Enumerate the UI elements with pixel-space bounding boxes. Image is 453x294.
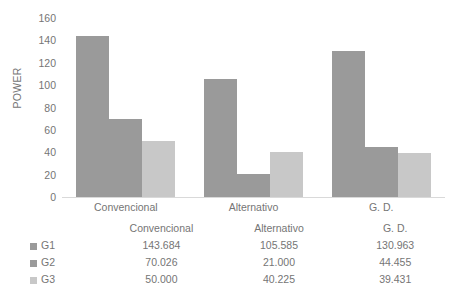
bar-group bbox=[76, 0, 175, 197]
table-column-header: G. D. bbox=[337, 219, 453, 236]
category-axis-labels: ConvencionalAlternativoG. D. bbox=[62, 200, 445, 218]
y-axis-tick-label: 160 bbox=[12, 13, 56, 24]
bar-g3 bbox=[142, 141, 175, 197]
bar-g2 bbox=[365, 147, 398, 197]
chart-data-table: ConvencionalAlternativoG. D.G1143.684105… bbox=[0, 219, 453, 287]
table-cell-value: 50.000 bbox=[102, 270, 220, 287]
bar-g1 bbox=[332, 51, 365, 198]
y-axis-tick-label: 120 bbox=[12, 58, 56, 69]
y-axis-tick-label: 140 bbox=[12, 35, 56, 46]
y-axis-tick-label: 20 bbox=[12, 169, 56, 180]
bar-g3 bbox=[398, 153, 431, 197]
y-axis-tick-label: 60 bbox=[12, 125, 56, 136]
y-axis-tick-label: 80 bbox=[12, 102, 56, 113]
table-cell-value: 39.431 bbox=[337, 270, 453, 287]
legend-swatch-icon bbox=[30, 277, 37, 284]
legend-swatch-icon bbox=[30, 243, 37, 250]
table-column-header: Alternativo bbox=[221, 219, 338, 236]
axis-baseline bbox=[62, 197, 445, 198]
table-cell-value: 40.225 bbox=[221, 270, 338, 287]
legend-swatch-icon bbox=[30, 260, 37, 267]
y-axis-tick-label: 40 bbox=[12, 147, 56, 158]
bar-g3 bbox=[270, 152, 303, 197]
table-cell-value: 105.585 bbox=[221, 236, 338, 253]
bar-g2 bbox=[237, 174, 270, 197]
table-column-header: Convencional bbox=[102, 219, 220, 236]
legend-series-label: G3 bbox=[41, 273, 55, 285]
legend-entry-g1: G1 bbox=[0, 236, 102, 253]
bar-chart-with-data-table: POWER 160140120100806040200 Convencional… bbox=[0, 0, 453, 294]
table-corner-cell bbox=[0, 219, 102, 236]
y-axis-ticks: 160140120100806040200 bbox=[8, 0, 56, 200]
legend-series-label: G2 bbox=[41, 256, 55, 268]
bars-area bbox=[62, 0, 445, 197]
category-label: Alternativo bbox=[190, 201, 318, 213]
category-label: Convencional bbox=[62, 201, 190, 213]
category-label: G. D. bbox=[317, 201, 445, 213]
table-cell-value: 21.000 bbox=[221, 253, 338, 270]
table-row: G270.02621.00044.455 bbox=[0, 253, 453, 270]
table-cell-value: 130.963 bbox=[337, 236, 453, 253]
table-row: G1143.684105.585130.963 bbox=[0, 236, 453, 253]
legend-entry-g2: G2 bbox=[0, 253, 102, 270]
bar-group bbox=[332, 0, 431, 197]
bar-group bbox=[204, 0, 303, 197]
legend-entry-g3: G3 bbox=[0, 270, 102, 287]
table-cell-value: 44.455 bbox=[337, 253, 453, 270]
plot-region: POWER 160140120100806040200 Convencional… bbox=[0, 0, 453, 200]
table-row: G350.00040.22539.431 bbox=[0, 270, 453, 287]
legend-series-label: G1 bbox=[41, 239, 55, 251]
table-cell-value: 143.684 bbox=[102, 236, 220, 253]
bar-g2 bbox=[109, 119, 142, 197]
bar-g1 bbox=[204, 79, 237, 197]
table-header-row: ConvencionalAlternativoG. D. bbox=[0, 219, 453, 236]
bar-g1 bbox=[76, 36, 109, 197]
y-axis-tick-label: 0 bbox=[12, 192, 56, 203]
y-axis-tick-label: 100 bbox=[12, 80, 56, 91]
table-cell-value: 70.026 bbox=[102, 253, 220, 270]
